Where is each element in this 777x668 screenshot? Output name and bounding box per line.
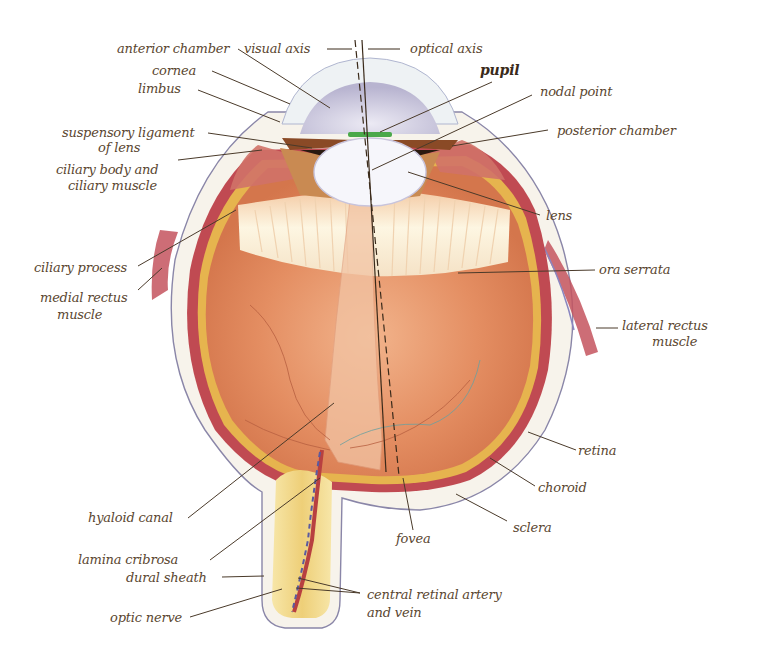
label-lateral-rectus-line1: lateral rectus [622,318,708,333]
label-ciliary-body-line1: ciliary body and [56,162,158,177]
label-optic-nerve: optic nerve [110,610,182,625]
eye-anatomy-diagram: anterior chamber visual axis optical axi… [0,0,777,668]
label-central-retinal-line2: and vein [367,605,422,620]
label-fovea: fovea [396,531,430,546]
label-retina: retina [578,443,616,458]
label-visual-axis: visual axis [244,41,310,56]
label-medial-rectus-line1: medial rectus [40,290,127,305]
label-sclera: sclera [513,520,552,535]
label-choroid: choroid [538,480,587,495]
label-anterior-chamber: anterior chamber [117,41,229,56]
label-limbus: limbus [138,81,181,96]
label-posterior-chamber: posterior chamber [557,123,676,138]
label-central-retinal-line1: central retinal artery [367,587,502,602]
label-medial-rectus-line2: muscle [57,307,102,322]
label-lens: lens [546,208,572,223]
label-ora-serrata: ora serrata [599,262,670,277]
pupil-marker [348,132,392,137]
label-lateral-rectus-line2: muscle [652,334,697,349]
label-pupil: pupil [480,63,519,78]
label-dural-sheath: dural sheath [126,570,207,585]
label-optical-axis: optical axis [410,41,482,56]
label-nodal-point: nodal point [540,84,612,99]
label-suspensory-ligament-line1: suspensory ligament [62,125,195,140]
label-hyaloid-canal: hyaloid canal [88,510,173,525]
label-cornea: cornea [152,63,196,78]
label-suspensory-ligament-line2: of lens [98,140,140,155]
label-ciliary-process: ciliary process [34,260,127,275]
label-ciliary-body-line2: ciliary muscle [68,178,157,193]
label-lamina-cribrosa: lamina cribrosa [78,552,178,567]
